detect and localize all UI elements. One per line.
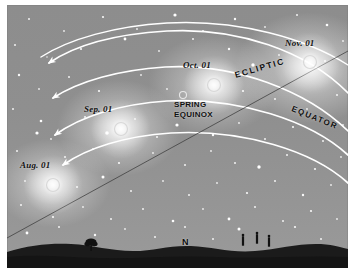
- star: [124, 228, 126, 230]
- star: [264, 138, 266, 140]
- star: [188, 194, 190, 196]
- star: [110, 218, 112, 220]
- star: [172, 220, 175, 223]
- star: [140, 74, 142, 76]
- star: [184, 226, 186, 228]
- star: [282, 220, 284, 222]
- star: [234, 18, 236, 20]
- star: [80, 48, 82, 50]
- star: [274, 98, 276, 100]
- star: [228, 218, 231, 221]
- spring-equinox-label: SPRING EQUINOX: [174, 100, 213, 119]
- star: [228, 48, 230, 50]
- star: [336, 94, 338, 96]
- star: [340, 156, 342, 158]
- star: [38, 88, 40, 90]
- star: [18, 74, 20, 76]
- star: [286, 154, 288, 156]
- star: [310, 210, 312, 212]
- star: [192, 38, 194, 40]
- star: [58, 226, 60, 228]
- star: [46, 56, 48, 58]
- star: [16, 150, 18, 152]
- star: [63, 30, 65, 32]
- star: [246, 192, 248, 194]
- star: [102, 16, 104, 18]
- star: [12, 108, 14, 110]
- star: [162, 180, 164, 182]
- star: [342, 40, 344, 42]
- star: [98, 90, 100, 92]
- sun-label-oct: Oct. 01: [183, 60, 211, 70]
- star: [152, 152, 154, 154]
- star: [118, 162, 120, 164]
- star: [173, 13, 176, 16]
- star: [264, 26, 266, 28]
- sun-label-nov: Nov. 01: [285, 38, 315, 48]
- star: [216, 182, 218, 184]
- star: [254, 206, 256, 208]
- person-silhouette-1: [242, 234, 245, 246]
- star: [184, 164, 186, 166]
- star: [154, 236, 156, 238]
- star: [166, 88, 168, 90]
- star: [82, 206, 84, 208]
- star: [124, 38, 127, 41]
- star: [336, 218, 338, 220]
- star: [26, 232, 29, 235]
- star: [322, 140, 324, 142]
- star: [294, 226, 296, 228]
- star: [234, 162, 236, 164]
- star: [326, 24, 329, 27]
- star: [302, 194, 304, 196]
- star: [320, 238, 322, 240]
- star: [142, 208, 144, 210]
- star: [158, 50, 160, 52]
- spring-equinox-marker-icon: [180, 92, 187, 99]
- star: [14, 44, 16, 46]
- star: [274, 180, 276, 182]
- star: [238, 228, 241, 231]
- sun-label-sep: Sep. 01: [84, 104, 112, 114]
- star: [20, 204, 22, 206]
- star: [40, 120, 43, 123]
- star: [257, 165, 260, 168]
- star: [94, 234, 96, 236]
- star: [202, 208, 204, 210]
- star: [102, 176, 105, 179]
- star: [238, 122, 240, 124]
- star: [212, 238, 214, 240]
- person-silhouette-2: [256, 232, 259, 244]
- ground-silhouette: [7, 232, 348, 268]
- night-sky-canvas: Aug. 01 Sep. 01 Oct. 01 Nov. 01 ECLIPTIC…: [7, 5, 348, 268]
- star: [28, 18, 30, 20]
- sun-marker-group: [23, 32, 340, 215]
- north-direction-label: N: [182, 237, 189, 247]
- star: [175, 123, 178, 126]
- star: [35, 131, 38, 134]
- star: [130, 190, 132, 192]
- sky-chart-figure: Aug. 01 Sep. 01 Oct. 01 Nov. 01 ECLIPTIC…: [0, 0, 354, 272]
- star: [330, 184, 332, 186]
- spring-equinox-label-line2: EQUINOX: [174, 110, 213, 120]
- star: [210, 150, 212, 152]
- person-silhouette-3: [268, 235, 271, 247]
- star: [50, 138, 52, 140]
- star: [296, 14, 298, 16]
- sun-label-aug: Aug. 01: [20, 160, 50, 170]
- star: [68, 76, 70, 78]
- star: [292, 126, 294, 128]
- star: [314, 168, 316, 170]
- star: [156, 136, 158, 138]
- star: [136, 28, 138, 30]
- star: [52, 216, 54, 218]
- star: [278, 54, 280, 56]
- spring-equinox-label-line1: SPRING: [174, 100, 213, 110]
